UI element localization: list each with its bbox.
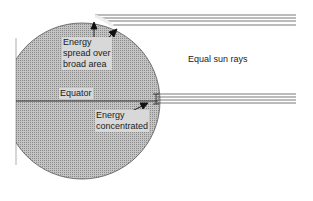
sun-rays-top [95,15,296,25]
label-spread-line1: Energy [63,37,111,48]
label-spread-line2: spread over [63,48,111,59]
label-equator: Equator [59,88,93,99]
label-energy-spread: Energy spread over broad area [62,37,112,70]
label-energy-concentrated: Energy concentrated [95,110,149,132]
label-spread-line3: broad area [63,59,111,70]
earth-sun-diagram [0,0,313,201]
label-equal-sun-rays: Equal sun rays [188,54,248,65]
label-concentrated-line2: concentrated [96,121,148,132]
sun-rays-equator [157,94,296,103]
label-concentrated-line1: Energy [96,110,148,121]
